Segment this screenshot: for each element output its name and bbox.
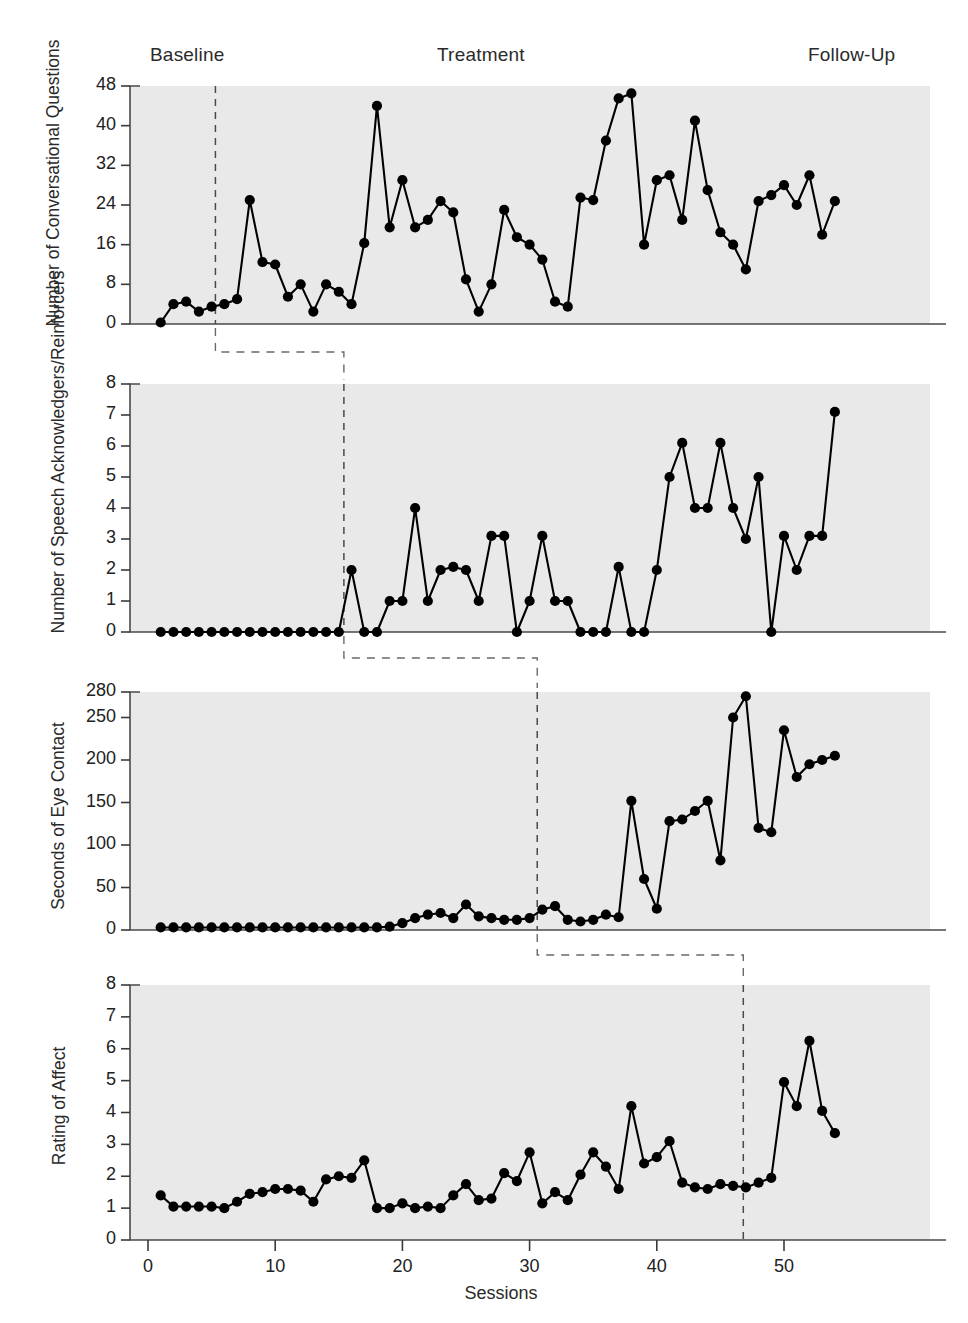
data-point (296, 1185, 306, 1195)
data-point (156, 1190, 166, 1200)
data-point (728, 240, 738, 250)
data-point (321, 922, 331, 932)
data-point (563, 596, 573, 606)
data-point (652, 565, 662, 575)
data-point (804, 759, 814, 769)
data-point (181, 922, 191, 932)
data-point (512, 1176, 522, 1186)
data-point (715, 227, 725, 237)
panel-1-ytick-label: 0 (58, 312, 116, 333)
panel-1 (121, 86, 946, 380)
data-point (423, 215, 433, 225)
panel-2-ytick-label: 7 (58, 403, 116, 424)
panel-4-ytick-label: 1 (58, 1196, 116, 1217)
data-point (156, 922, 166, 932)
data-point (741, 691, 751, 701)
panel-2-ytick-label: 6 (58, 434, 116, 455)
data-point (499, 1168, 509, 1178)
data-point (550, 1187, 560, 1197)
data-point (792, 565, 802, 575)
panel-4-ytick-label: 7 (58, 1005, 116, 1026)
data-point (830, 1128, 840, 1138)
data-point (664, 472, 674, 482)
data-point (614, 562, 624, 572)
data-point (207, 1201, 217, 1211)
data-point (474, 1195, 484, 1205)
data-point (601, 135, 611, 145)
data-point (537, 531, 547, 541)
data-point (245, 1189, 255, 1199)
data-point (308, 1197, 318, 1207)
data-point (741, 1182, 751, 1192)
data-point (817, 755, 827, 765)
data-point (753, 1178, 763, 1188)
data-point (181, 627, 191, 637)
data-point (448, 1190, 458, 1200)
panel-1-ytick-label: 40 (58, 114, 116, 135)
data-point (779, 1077, 789, 1087)
data-point (753, 196, 763, 206)
data-point (614, 93, 624, 103)
data-point (283, 292, 293, 302)
data-point (486, 279, 496, 289)
data-point (588, 1147, 598, 1157)
panel-3-ytick-label: 150 (58, 791, 116, 812)
data-point (664, 816, 674, 826)
data-point (804, 170, 814, 180)
data-point (563, 302, 573, 312)
data-point (194, 627, 204, 637)
data-point (308, 627, 318, 637)
panel-3-ytick-label: 50 (58, 876, 116, 897)
data-point (677, 215, 687, 225)
data-point (346, 922, 356, 932)
data-point (474, 911, 484, 921)
data-point (753, 472, 763, 482)
data-point (499, 915, 509, 925)
panel-2-ytick-label: 8 (58, 372, 116, 393)
data-point (385, 1203, 395, 1213)
data-point (283, 1184, 293, 1194)
data-point (461, 565, 471, 575)
data-point (563, 915, 573, 925)
data-point (321, 627, 331, 637)
data-point (690, 116, 700, 126)
data-point (601, 910, 611, 920)
panel-4-ytick-label: 0 (58, 1228, 116, 1249)
panel-1-ytick-label: 32 (58, 153, 116, 174)
data-point (664, 1136, 674, 1146)
data-point (219, 627, 229, 637)
panel-4-ytick-label: 2 (58, 1164, 116, 1185)
panel-3-ytick-label: 250 (58, 706, 116, 727)
panel-3 (121, 691, 946, 981)
data-point (232, 294, 242, 304)
data-point (207, 922, 217, 932)
data-point (652, 904, 662, 914)
data-point (461, 274, 471, 284)
panel-1-ytick-label: 24 (58, 193, 116, 214)
data-point (359, 627, 369, 637)
data-point (334, 627, 344, 637)
data-point (359, 238, 369, 248)
data-point (257, 922, 267, 932)
data-point (575, 1170, 585, 1180)
data-point (359, 1155, 369, 1165)
x-tick-label: 20 (372, 1256, 432, 1277)
data-point (550, 901, 560, 911)
data-point (792, 1101, 802, 1111)
data-point (207, 302, 217, 312)
data-point (372, 627, 382, 637)
data-point (525, 596, 535, 606)
data-point (156, 627, 166, 637)
data-point (334, 922, 344, 932)
data-point (270, 259, 280, 269)
data-point (423, 596, 433, 606)
data-point (321, 279, 331, 289)
data-point (728, 712, 738, 722)
data-point (448, 562, 458, 572)
data-point (639, 627, 649, 637)
data-point (168, 627, 178, 637)
data-point (512, 915, 522, 925)
data-point (537, 254, 547, 264)
phase-step-connector-1 (215, 328, 343, 380)
data-point (156, 317, 166, 327)
